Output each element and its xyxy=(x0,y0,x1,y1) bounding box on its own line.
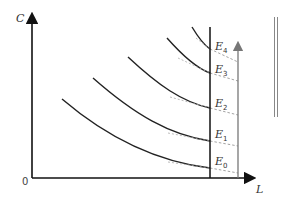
x-axis-label: L xyxy=(255,183,263,196)
curve-e4 xyxy=(192,27,210,49)
label-e2: E2 xyxy=(214,97,228,112)
y-axis-label: C xyxy=(16,12,25,25)
isoquant-diagram: C L 0 E4 E3 E2 E1 E0 xyxy=(0,0,285,202)
dashed-e0-left xyxy=(168,162,210,168)
curve-e0 xyxy=(62,99,210,168)
label-e3: E3 xyxy=(214,63,228,78)
origin-label: 0 xyxy=(22,176,28,187)
curve-e2 xyxy=(128,57,210,108)
label-e4: E4 xyxy=(214,40,228,55)
label-e0: E0 xyxy=(214,155,228,170)
dashed-e1-left xyxy=(168,133,210,141)
label-e1: E1 xyxy=(214,128,228,143)
curve-e1 xyxy=(93,78,210,141)
